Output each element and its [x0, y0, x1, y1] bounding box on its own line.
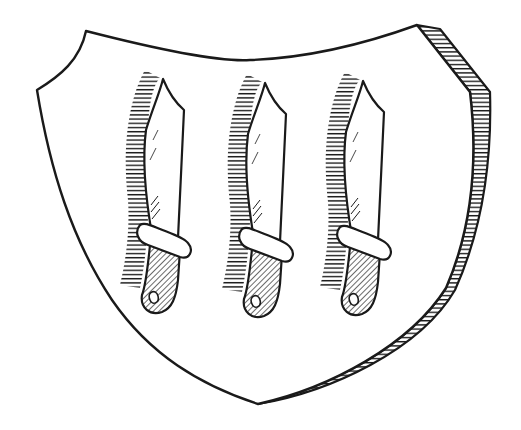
heraldic-shield-drawing	[0, 0, 521, 430]
